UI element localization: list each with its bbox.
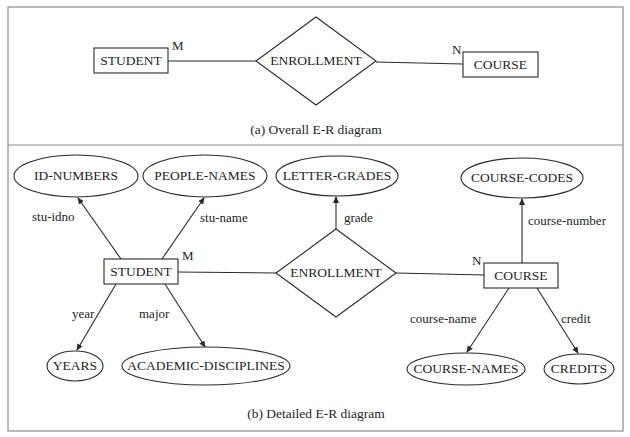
- value-set-years: YEARS: [47, 351, 103, 381]
- detailed-caption: (b) Detailed E-R diagram: [247, 406, 385, 421]
- overall-caption: (a) Overall E-R diagram: [250, 122, 382, 137]
- attribute-label-grade: grade: [344, 210, 373, 225]
- attribute-label-course-number: course-number: [528, 213, 607, 228]
- attribute-label-year: year: [72, 306, 95, 321]
- attribute-arrow-stu-idno: [78, 198, 121, 259]
- value-set-letter-grades: LETTER-GRADES: [276, 156, 398, 196]
- detailed-er-diagram: stu-idnostu-namegradecourse-numberyearma…: [14, 155, 614, 421]
- attribute-label-major: major: [139, 306, 170, 321]
- value-set-id-numbers: ID-NUMBERS: [14, 155, 138, 197]
- entity-label: COURSE: [474, 57, 527, 72]
- relationship-link: [396, 273, 484, 275]
- value-set-label: LETTER-GRADES: [283, 168, 392, 183]
- entity-student: STUDENT: [94, 48, 168, 73]
- value-set-label: CREDITS: [551, 361, 607, 376]
- entity-label: STUDENT: [100, 53, 162, 68]
- cardinality-M: M: [172, 38, 184, 53]
- attribute-arrow-major: [165, 284, 205, 347]
- value-set-label: ID-NUMBERS: [34, 168, 118, 183]
- value-set-label: COURSE-CODES: [471, 170, 573, 185]
- entity-course: COURSE: [463, 52, 538, 77]
- attribute-label-stu-name: stu-name: [200, 210, 248, 225]
- attribute-label-course-name: course-name: [410, 311, 477, 326]
- relationship-enrollment: ENROLLMENT: [256, 17, 376, 105]
- entity-label: STUDENT: [110, 264, 172, 279]
- value-set-label: PEOPLE-NAMES: [154, 168, 255, 183]
- value-set-label: COURSE-NAMES: [413, 361, 518, 376]
- value-set-credits: CREDITS: [544, 354, 614, 384]
- cardinality-N: N: [452, 42, 462, 57]
- value-set-label: YEARS: [53, 358, 97, 373]
- value-set-course-codes: COURSE-CODES: [461, 158, 583, 198]
- attribute-label-stu-idno: stu-idno: [32, 209, 75, 224]
- value-set-label: ACADEMIC-DISCIPLINES: [127, 358, 285, 373]
- cardinality-M: M: [182, 248, 194, 263]
- relationship-link: [376, 62, 463, 64]
- relationship-link: [178, 272, 276, 273]
- overall-er-diagram: ENROLLMENTSTUDENTCOURSEMN(a) Overall E-R…: [94, 17, 538, 137]
- relationship-enrollment: ENROLLMENT: [276, 229, 396, 317]
- entity-student: STUDENT: [104, 259, 178, 284]
- er-diagram-figure: ENROLLMENTSTUDENTCOURSEMN(a) Overall E-R…: [0, 0, 630, 437]
- entity-course: COURSE: [484, 263, 558, 288]
- attribute-label-credit: credit: [561, 311, 591, 326]
- value-set-people-names: PEOPLE-NAMES: [143, 155, 267, 197]
- relationship-label: ENROLLMENT: [290, 265, 382, 280]
- relationship-label: ENROLLMENT: [270, 53, 362, 68]
- entity-label: COURSE: [494, 268, 547, 283]
- cardinality-N: N: [472, 253, 482, 268]
- value-set-course-names: COURSE-NAMES: [407, 353, 525, 385]
- value-set-academic-disciplines: ACADEMIC-DISCIPLINES: [122, 347, 290, 385]
